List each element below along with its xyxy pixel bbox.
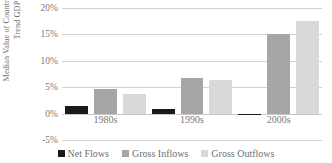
chart-legend: Net FlowsGross InflowsGross Outflows (0, 146, 332, 161)
y-axis-tick: 10% (41, 56, 58, 66)
bar-chart: Median Value of Country Averages / Trend… (0, 0, 332, 163)
legend-label: Net Flows (68, 148, 109, 159)
bar[interactable] (65, 106, 88, 114)
bar[interactable] (181, 78, 204, 114)
y-axis-tick: 5% (45, 82, 58, 92)
legend-item[interactable]: Gross Inflows (122, 148, 188, 159)
bar[interactable] (296, 21, 319, 113)
legend-label: Gross Inflows (132, 148, 188, 159)
bar[interactable] (267, 34, 290, 113)
x-axis-tick: 1980s (93, 114, 117, 125)
gridline (62, 140, 322, 141)
x-axis-tick: 2000s (267, 114, 291, 125)
legend-label: Gross Outflows (211, 148, 274, 159)
x-axis-tick: 1990s (180, 114, 204, 125)
legend-item[interactable]: Net Flows (58, 148, 109, 159)
legend-swatch-icon (58, 150, 65, 157)
y-axis-tick: 15% (41, 29, 58, 39)
bar[interactable] (209, 80, 232, 113)
legend-swatch-icon (122, 150, 129, 157)
bar[interactable] (123, 94, 146, 114)
y-axis-tick: 0% (45, 109, 58, 119)
y-axis-tick: 20% (41, 3, 58, 13)
y-axis-tick: -5% (42, 135, 58, 145)
y-axis-tick-labels: 20%15%10%5%0%-5% (0, 0, 62, 145)
legend-swatch-icon (201, 150, 208, 157)
bar[interactable] (152, 109, 175, 113)
x-axis-tick-labels: 1980s1990s2000s (62, 114, 322, 130)
bar[interactable] (94, 89, 117, 114)
legend-item[interactable]: Gross Outflows (201, 148, 274, 159)
